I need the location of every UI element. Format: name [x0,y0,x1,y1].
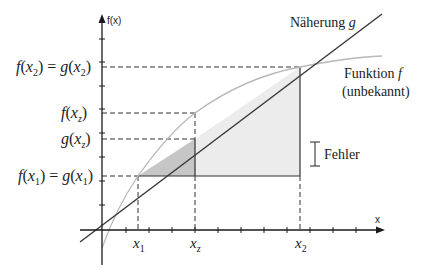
approximation-label: Näherung g [290,15,356,30]
label-x2: x2 [294,235,307,254]
label-f-xz: f(xz) [61,104,87,124]
small-triangle-dark [138,139,195,176]
large-triangle-light [138,67,300,176]
y-axis-label: f(x) [107,15,121,26]
function-subtitle: (unbekannt) [342,84,410,100]
x-axis-label: x [375,214,380,225]
x-axis-arrow-icon [376,227,385,234]
function-label: Funktion f [344,66,404,81]
error-bracket-icon [310,142,320,166]
label-x1: x1 [132,235,145,254]
label-xz: xz [189,235,201,254]
error-label: Fehler [324,147,360,162]
linear-interpolation-diagram: Fehler f(x) x Näherung g Funktion f (unb… [0,0,422,269]
label-f-x2-eq-g-x2: f(x2) = g(x2) [16,58,91,78]
label-f-x1-eq-g-x1: f(x1) = g(x1) [18,167,93,187]
label-g-xz: g(xz) [61,130,91,150]
approximation-line-g [80,14,382,242]
y-axis-arrow-icon [99,14,106,23]
